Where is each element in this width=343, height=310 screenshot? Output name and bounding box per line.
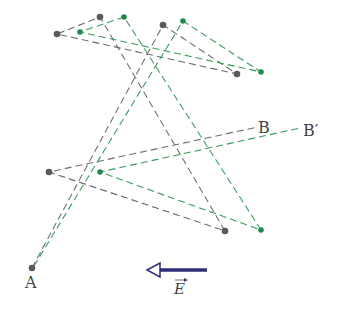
point-marker [160,22,167,29]
point-marker [54,31,61,38]
point-marker [258,227,264,233]
label-a: A [24,273,37,292]
point-marker [258,69,264,75]
point-marker [234,71,241,78]
label-b-prime: B′ [303,121,319,140]
shifted-points [77,14,264,233]
label-e: E [173,280,185,298]
label-e-vector: E [173,278,188,298]
label-b: B [258,118,270,137]
arrow-head-icon [147,263,160,277]
point-marker [46,169,53,176]
point-marker [97,169,103,175]
field-arrow [147,263,207,277]
original-points [29,14,241,272]
point-marker [121,14,127,20]
point-marker [180,18,186,24]
point-marker [222,228,229,235]
point-marker [77,29,83,35]
point-marker [97,14,104,21]
path-diagram: A B B′ E [0,0,343,310]
point-marker [29,265,36,272]
